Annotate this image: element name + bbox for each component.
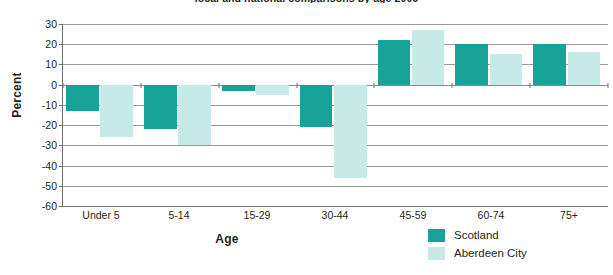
bar-group [530,24,608,206]
bar[interactable] [178,85,211,146]
chart-title: local and national comparisons by age 20… [0,0,613,3]
bar[interactable] [222,85,255,91]
legend-label: Aberdeen City [454,247,527,259]
legend-item[interactable]: Scotland [428,226,608,244]
zero-line-tick [218,83,219,88]
bar-group [374,24,452,206]
bar-group [63,24,141,206]
plot-area: 3020100-10-20-30-40-50-60 [62,24,608,206]
zero-line-tick [374,83,375,88]
x-axis-tick-label: 5-14 [168,209,189,221]
bar[interactable] [455,44,488,84]
bar[interactable] [568,52,601,84]
bars-layer [63,24,608,206]
bar[interactable] [490,54,523,84]
bar[interactable] [300,85,333,127]
bar-group [297,24,375,206]
bar-group [219,24,297,206]
legend-swatch-icon [428,247,445,260]
bar[interactable] [144,85,177,129]
y-axis-tick-label: -10 [42,100,57,111]
y-axis-tick-label: -20 [42,120,57,131]
bar[interactable] [66,85,99,111]
x-axis-title: Age [62,232,392,246]
y-axis-tick-label: -50 [42,181,57,192]
plot-wrapper: 3020100-10-20-30-40-50-60 [62,24,608,206]
bar[interactable] [100,85,133,138]
chart-legend: ScotlandAberdeen City [428,226,608,262]
y-axis-tick-label: -60 [42,201,57,212]
bar-group [452,24,530,206]
zero-line-tick [140,83,141,88]
legend-label: Scotland [454,229,499,241]
x-axis-line [62,206,608,207]
x-axis-tick-label: 60-74 [478,209,505,221]
legend-swatch-icon [428,229,445,242]
legend-item[interactable]: Aberdeen City [428,244,608,262]
bar[interactable] [412,30,445,85]
y-axis-tick-label: 20 [45,39,57,50]
bar[interactable] [378,40,411,84]
x-axis-tick-label: 75+ [560,209,578,221]
y-axis-tick-label: -40 [42,160,57,171]
y-axis-tick-label: 0 [51,79,57,90]
bar[interactable] [533,44,566,84]
bar-group [141,24,219,206]
x-axis-tick-label: 15-29 [244,209,271,221]
zero-line-tick [608,83,609,88]
y-axis-tick-label: -30 [42,140,57,151]
x-axis-tick-label: 30-44 [322,209,349,221]
x-axis-tick-label: Under 5 [82,209,119,221]
bar[interactable] [334,85,367,178]
x-axis-tick-label: 45-59 [400,209,427,221]
zero-line-tick [63,83,64,88]
y-axis-title: Percent [10,60,24,130]
x-axis-tick-labels: Under 55-1415-2930-4445-5960-7475+ [62,209,608,225]
zero-line-tick [452,83,453,88]
zero-line-tick [296,83,297,88]
zero-line-tick [530,83,531,88]
bar[interactable] [256,85,289,95]
y-axis-tick-label: 30 [45,19,57,30]
y-axis-tick-label: 10 [45,59,57,70]
